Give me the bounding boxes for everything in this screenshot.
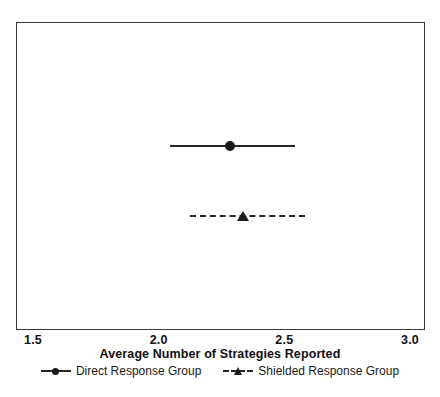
plot-area xyxy=(16,22,425,330)
x-axis-title: Average Number of Strategies Reported xyxy=(0,347,440,361)
legend-entry-direct-response-group: Direct Response Group xyxy=(41,364,201,378)
x-tick-label-2: 2.0 xyxy=(150,333,168,347)
x-tick-label-3: 2.5 xyxy=(275,333,293,347)
series-direct-response-group xyxy=(170,137,296,155)
series-shielded-response-group xyxy=(190,207,306,225)
legend-entry-shielded-response-group: Shielded Response Group xyxy=(223,364,399,378)
marker-circle-direct-response-group xyxy=(225,141,235,151)
legend-label-shielded-response-group: Shielded Response Group xyxy=(258,364,399,378)
x-tick-label-1: 1.5 xyxy=(24,333,42,347)
x-tick-label-4: 3.0 xyxy=(401,333,419,347)
legend-label-direct-response-group: Direct Response Group xyxy=(76,364,201,378)
legend-key-circle-solid-icon xyxy=(41,365,71,377)
chart-figure: 1.5 2.0 2.5 3.0 Average Number of Strate… xyxy=(0,0,440,397)
marker-triangle-shielded-response-group xyxy=(237,211,249,221)
chart-legend: Direct Response Group Shielded Response … xyxy=(0,364,440,378)
legend-key-triangle-dashed-icon xyxy=(223,365,253,377)
